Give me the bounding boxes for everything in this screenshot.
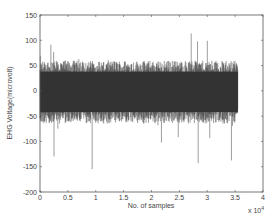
x-multiplier-label: x 104 bbox=[248, 205, 264, 214]
x-tick-label: 3.5 bbox=[230, 194, 240, 201]
y-axis-label: EHG Voltage(microvolt) bbox=[6, 66, 14, 139]
x-tick-label: 3 bbox=[205, 194, 209, 201]
x-tick-label: 2.5 bbox=[175, 194, 185, 201]
x-tick-label: 1 bbox=[94, 194, 98, 201]
x-tick-label: 2 bbox=[150, 194, 154, 201]
x-axis-label: No. of samples bbox=[128, 202, 175, 210]
y-tick-label: -100 bbox=[23, 138, 37, 145]
y-tick-label: -150 bbox=[23, 163, 37, 170]
x-tick-label: 0.5 bbox=[63, 194, 73, 201]
y-tick-label: 0 bbox=[33, 87, 37, 94]
y-tick-label: 50 bbox=[29, 62, 37, 69]
x-tick-label: 0 bbox=[38, 194, 42, 201]
ehg-signal-chart: 00.511.522.533.54 150100500-50-100-150-2… bbox=[0, 0, 280, 223]
y-tick-label: -50 bbox=[27, 113, 37, 120]
y-tick-label: 150 bbox=[25, 12, 37, 19]
y-tick-label: 100 bbox=[25, 37, 37, 44]
x-tick-label: 4 bbox=[261, 194, 265, 201]
signal-trace bbox=[40, 33, 238, 169]
x-tick-label: 1.5 bbox=[119, 194, 129, 201]
y-tick-label: -200 bbox=[23, 189, 37, 196]
